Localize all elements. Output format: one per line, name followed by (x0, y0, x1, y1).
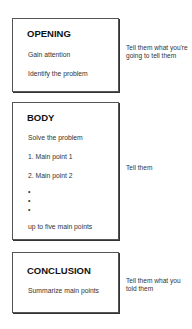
conclusion-line-1: Summarize main points (28, 287, 99, 294)
body-bullet-2: • (28, 197, 30, 204)
body-line-1: Solve the problem (28, 134, 83, 141)
opening-line-1: Gain attention (28, 51, 70, 58)
body-main-point-2: 2. Main point 2 (28, 172, 73, 179)
conclusion-box: CONCLUSION Summarize main points (12, 252, 119, 313)
conclusion-note: Tell them what you told them (126, 277, 190, 294)
body-box: BODY Solve the problem 1. Main point 1 2… (12, 102, 119, 240)
opening-box: OPENING Gain attention Identify the prob… (12, 18, 119, 92)
body-line-last: up to five main points (28, 223, 92, 230)
opening-line-2: Identify the problem (28, 70, 88, 77)
body-bullet-3: • (28, 206, 30, 213)
body-note: Tell them (126, 164, 190, 172)
body-bullet-1: • (28, 188, 30, 195)
body-main-point-1: 1. Main point 1 (28, 153, 73, 160)
opening-note: Tell them what you're going to tell them (126, 44, 190, 61)
body-title: BODY (27, 112, 54, 123)
conclusion-title: CONCLUSION (27, 265, 91, 276)
opening-title: OPENING (27, 28, 71, 39)
